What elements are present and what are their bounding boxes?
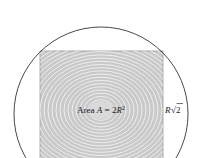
side-length-label: R√2: [164, 104, 183, 116]
svg-text:R√2: R√2: [164, 105, 180, 115]
inscribed-square-diagram: Area A = 2R2 R√2: [0, 0, 200, 158]
square-region: [0, 16, 200, 158]
area-label: Area A = 2R2: [77, 105, 125, 116]
concentric-rings: [0, 16, 200, 158]
